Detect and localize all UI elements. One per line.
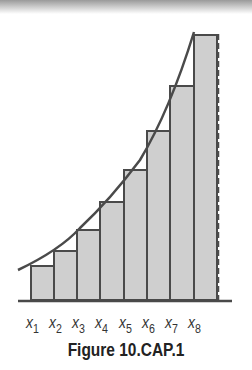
x-label-5: x5 xyxy=(119,313,132,336)
rectangle-7 xyxy=(170,86,194,300)
rectangle-1 xyxy=(31,266,54,300)
rectangle-6 xyxy=(147,131,170,300)
riemann-sum-diagram xyxy=(0,0,252,312)
rectangles xyxy=(31,35,217,300)
x-axis-labels: x1 x2 x3 x4 x5 x6 x7 x8 xyxy=(0,313,252,337)
x-label-4: x4 xyxy=(95,313,108,336)
x-label-3: x3 xyxy=(72,313,85,336)
x-label-7: x7 xyxy=(165,313,178,336)
x-label-8: x8 xyxy=(188,313,201,336)
rectangle-3 xyxy=(77,230,100,300)
rectangle-2 xyxy=(54,251,77,300)
x-label-2: x2 xyxy=(49,313,62,336)
x-label-1: x1 xyxy=(26,313,39,336)
x-label-6: x6 xyxy=(142,313,155,336)
figure-caption: Figure 10.CAP.1 xyxy=(18,340,235,361)
rectangle-8 xyxy=(194,35,217,300)
rectangle-5 xyxy=(124,170,147,300)
rectangle-4 xyxy=(100,202,124,300)
